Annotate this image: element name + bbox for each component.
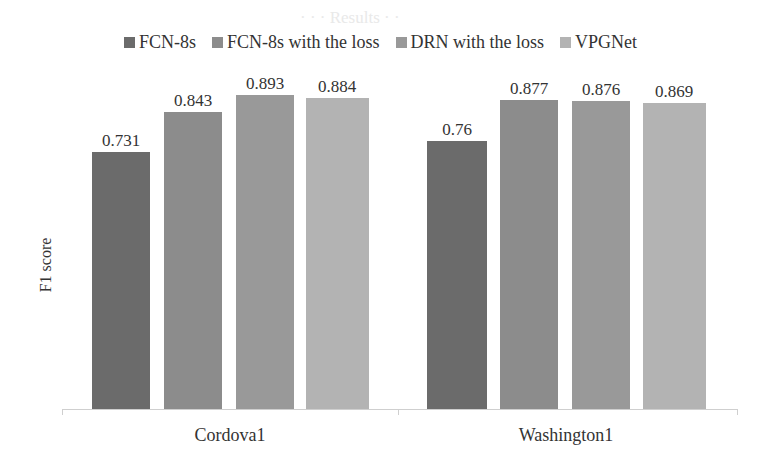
value-label: 0.876 bbox=[561, 80, 641, 100]
legend-swatch-fcn8s bbox=[124, 37, 135, 48]
value-label: 0.869 bbox=[634, 82, 714, 102]
x-axis-tick bbox=[398, 409, 399, 415]
legend-item-fcn8s-loss: FCN-8s with the loss bbox=[212, 32, 380, 53]
bar-cordova1-drn-loss bbox=[236, 95, 294, 409]
x-category-label: Washington1 bbox=[519, 425, 614, 446]
x-category-label: Cordova1 bbox=[195, 425, 266, 446]
background-bleed-text: · · · Results · · bbox=[300, 8, 400, 28]
x-axis-tick bbox=[62, 409, 63, 415]
legend-item-drn-loss: DRN with the loss bbox=[396, 32, 545, 53]
value-label: 0.731 bbox=[81, 131, 161, 151]
legend-label: FCN-8s bbox=[139, 32, 196, 53]
x-axis-tick bbox=[737, 409, 738, 415]
legend-label: FCN-8s with the loss bbox=[227, 32, 380, 53]
legend-item-vpgnet: VPGNet bbox=[560, 32, 637, 53]
bar-washington1-drn-loss bbox=[572, 101, 630, 409]
legend: FCN-8s FCN-8s with the loss DRN with the… bbox=[0, 32, 761, 53]
plot-area: 0.731 0.843 0.893 0.884 0.76 0.877 0.876… bbox=[62, 57, 738, 409]
bar-cordova1-fcn8s-loss bbox=[164, 112, 222, 409]
bar-cordova1-fcn8s bbox=[92, 152, 150, 409]
legend-label: VPGNet bbox=[575, 32, 637, 53]
value-label: 0.843 bbox=[153, 91, 233, 111]
legend-swatch-fcn8s-loss bbox=[212, 37, 223, 48]
bar-washington1-fcn8s bbox=[427, 141, 487, 409]
legend-item-fcn8s: FCN-8s bbox=[124, 32, 196, 53]
value-label: 0.884 bbox=[297, 77, 377, 97]
value-label: 0.893 bbox=[225, 74, 305, 94]
legend-swatch-drn-loss bbox=[396, 37, 407, 48]
y-axis-label: F1 score bbox=[37, 238, 55, 293]
value-label: 0.877 bbox=[489, 79, 569, 99]
value-label: 0.76 bbox=[417, 120, 497, 140]
x-axis-line bbox=[62, 409, 738, 410]
legend-swatch-vpgnet bbox=[560, 37, 571, 48]
bar-cordova1-vpgnet bbox=[306, 98, 369, 409]
bar-washington1-fcn8s-loss bbox=[500, 100, 558, 409]
legend-label: DRN with the loss bbox=[411, 32, 545, 53]
bar-washington1-vpgnet bbox=[643, 103, 706, 409]
